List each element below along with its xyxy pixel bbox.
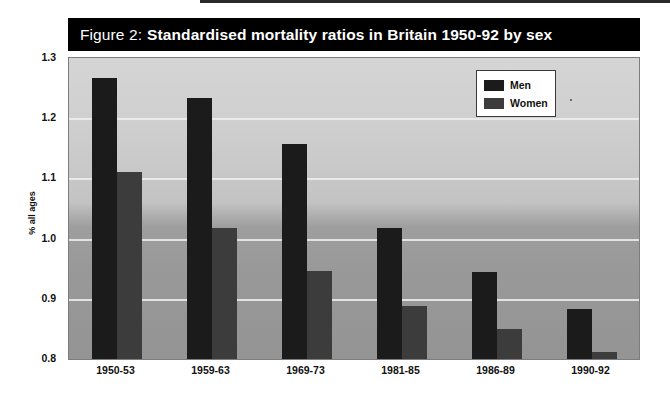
- y-axis-title: % all ages: [27, 175, 37, 251]
- bar-women-1986-89: [497, 329, 522, 359]
- figure-container: Figure 2: Standardised mortality ratios …: [0, 0, 670, 394]
- bar-women-1959-63: [212, 228, 237, 359]
- legend-label-men: Men: [510, 79, 531, 91]
- scan-speck: [570, 99, 572, 101]
- bar-men-1981-85: [377, 228, 402, 359]
- bar-women-1990-92: [592, 352, 617, 359]
- bar-group: [69, 58, 164, 359]
- legend: MenWomen: [476, 70, 556, 117]
- x-axis: 1950-531959-631969-731981-851986-891990-…: [68, 364, 640, 382]
- legend-swatch-women: [484, 98, 504, 109]
- bar-group: [544, 58, 639, 359]
- bar-men-1990-92: [567, 309, 592, 359]
- bar-men-1969-73: [282, 144, 307, 359]
- x-axis-tick-label: 1969-73: [258, 364, 353, 376]
- legend-item-men: Men: [484, 76, 555, 94]
- bar-group: [259, 58, 354, 359]
- legend-swatch-men: [484, 80, 504, 91]
- y-axis-tick-label: 1.2: [41, 111, 56, 123]
- x-axis-tick-label: 1959-63: [163, 364, 258, 376]
- x-axis-tick-label: 1981-85: [353, 364, 448, 376]
- y-axis-tick-label: 0.9: [41, 292, 56, 304]
- y-axis-tick-label: 1.1: [41, 171, 56, 183]
- x-axis-tick-label: 1986-89: [448, 364, 543, 376]
- bar-men-1986-89: [472, 272, 497, 359]
- y-axis-tick-label: 1.3: [41, 51, 56, 63]
- x-axis-tick-label: 1950-53: [68, 364, 163, 376]
- bar-women-1969-73: [307, 271, 332, 359]
- bar-group: [354, 58, 449, 359]
- x-axis-tick-label: 1990-92: [543, 364, 638, 376]
- figure-title-text: Standardised mortality ratios in Britain…: [147, 26, 552, 44]
- bar-men-1950-53: [92, 78, 117, 359]
- figure-title-bar: Figure 2: Standardised mortality ratios …: [68, 18, 640, 51]
- bar-women-1981-85: [402, 306, 427, 359]
- bar-group: [164, 58, 259, 359]
- figure-number-label: Figure 2:: [80, 26, 142, 44]
- legend-label-women: Women: [510, 97, 548, 109]
- bar-men-1959-63: [187, 98, 212, 359]
- y-axis-tick-label: 1.0: [41, 232, 56, 244]
- top-rule: [200, 0, 670, 3]
- legend-item-women: Women: [484, 94, 555, 112]
- bar-women-1950-53: [117, 172, 142, 359]
- y-axis-tick-label: 0.8: [41, 352, 56, 364]
